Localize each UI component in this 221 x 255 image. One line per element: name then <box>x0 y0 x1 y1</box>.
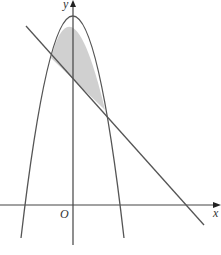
straight-line <box>26 26 204 225</box>
origin-label: O <box>60 207 69 222</box>
diagram <box>0 0 221 255</box>
shaded-region <box>51 27 105 110</box>
y-axis-label: y <box>63 0 68 12</box>
y-axis-arrow-icon <box>70 0 76 7</box>
x-axis-label: x <box>213 206 218 221</box>
